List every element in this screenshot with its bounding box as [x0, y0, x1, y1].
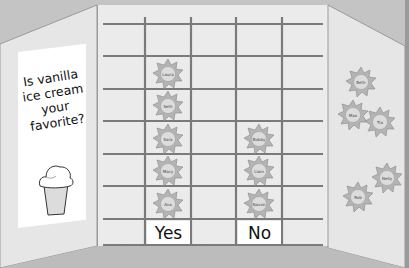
grid-rows — [103, 24, 323, 245]
sun-name: Ava — [153, 189, 183, 219]
sun-name: Seth — [153, 91, 183, 121]
sun-name: Macy — [153, 156, 183, 186]
sun-token-unplaced[interactable]: Tia — [365, 107, 395, 137]
sun-token-yes[interactable]: Sara — [153, 124, 183, 154]
sun-name: Navon — [244, 189, 274, 219]
sun-token-yes[interactable]: Laura — [153, 59, 183, 89]
sun-name: Laura — [153, 59, 183, 89]
sun-token-no[interactable]: Liam — [244, 156, 274, 186]
sun-name: Rob — [343, 182, 373, 212]
sun-token-yes[interactable]: Macy — [153, 156, 183, 186]
sun-token-unplaced[interactable]: Nelly — [372, 163, 402, 193]
sun-token-no[interactable]: Bobby — [244, 124, 274, 154]
sun-name: Liam — [244, 156, 274, 186]
poster-question: Is vanilla ice cream your favorite? — [12, 64, 96, 135]
column-label-yes: Yes — [147, 221, 190, 244]
sun-token-unplaced[interactable]: Max — [338, 100, 368, 130]
sun-token-unplaced[interactable]: Rob — [343, 182, 373, 212]
sun-token-unplaced[interactable]: Beth — [346, 67, 376, 97]
sun-token-yes[interactable]: Seth — [153, 91, 183, 121]
column-label-no: No — [238, 221, 281, 244]
sun-token-no[interactable]: Navon — [244, 189, 274, 219]
sun-name: Sara — [153, 124, 183, 154]
sun-name: Bobby — [244, 124, 274, 154]
sun-name: Max — [338, 100, 368, 130]
tri-fold-board: Is vanilla ice cream your favorite? Yes … — [0, 0, 409, 268]
sun-name: Beth — [346, 67, 376, 97]
ice-cream-cup-icon — [34, 158, 78, 218]
sun-token-yes[interactable]: Ava — [153, 189, 183, 219]
sun-name: Tia — [365, 107, 395, 137]
sun-name: Nelly — [372, 163, 402, 193]
